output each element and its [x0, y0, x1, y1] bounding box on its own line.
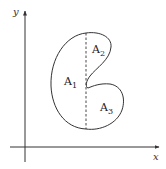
region-diagram: y x A1 A2 A3: [0, 0, 166, 169]
y-axis-label: y: [12, 6, 19, 17]
region-label-a3: A3: [99, 101, 113, 116]
region-label-a2: A2: [91, 43, 105, 58]
region-label-a1: A1: [63, 75, 77, 90]
x-axis-label: x: [153, 151, 159, 162]
